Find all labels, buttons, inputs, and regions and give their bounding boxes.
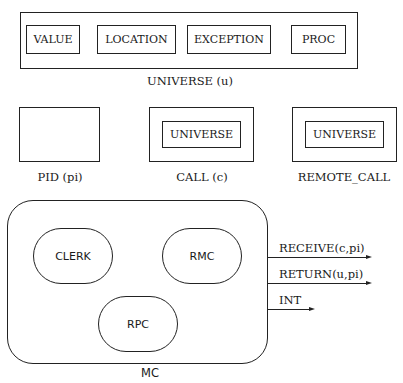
pid-box: [19, 107, 100, 162]
call-universe-box: UNIVERSE: [162, 121, 241, 148]
value-box: VALUE: [26, 25, 80, 54]
int-label: INT: [279, 293, 301, 307]
rmc-node: RMC: [162, 228, 242, 284]
receive-arrow: [267, 257, 367, 258]
return-arrow: [267, 283, 367, 284]
call-label: CALL (c): [150, 170, 254, 184]
pid-label: PID (pi): [10, 170, 110, 184]
proc-box: PROC: [291, 25, 346, 54]
int-arrow: [267, 309, 310, 310]
receive-label: RECEIVE(c,pi): [279, 241, 365, 255]
rpc-node: RPC: [98, 296, 178, 352]
remote-call-label: REMOTE_CALL: [284, 170, 403, 184]
remote-call-universe-box: UNIVERSE: [305, 121, 384, 148]
clerk-node: CLERK: [33, 228, 113, 284]
return-label: RETURN(u,pi): [279, 267, 363, 281]
exception-box: EXCEPTION: [187, 25, 271, 54]
universe-label: UNIVERSE (u): [130, 74, 250, 88]
mc-label: MC: [130, 366, 170, 380]
location-box: LOCATION: [97, 25, 176, 54]
